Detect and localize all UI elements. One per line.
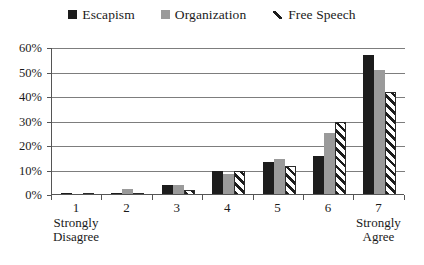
legend-swatch-hatch-icon <box>272 10 283 20</box>
bar-organization[interactable] <box>274 159 285 195</box>
x-tick-mark <box>303 195 304 200</box>
chart-legend: Escapism Organization Free Speech <box>0 8 424 22</box>
y-tick-mark <box>47 146 52 147</box>
bar-organization[interactable] <box>223 174 234 195</box>
x-category-sub-line1: Strongly <box>41 216 111 231</box>
bar-group-2 <box>111 48 144 195</box>
x-category-7: 7 Strongly Agree <box>343 201 413 245</box>
x-category-number: 7 <box>343 201 413 216</box>
y-tick-label: 10% <box>19 163 42 178</box>
bar-group-7 <box>363 48 396 195</box>
x-axis-labels: 1 Strongly Disagree 2 3 4 5 6 7 Strongly… <box>0 201 424 265</box>
x-tick-mark <box>101 195 102 200</box>
y-tick-label: 20% <box>19 139 42 154</box>
y-tick-mark <box>47 73 52 74</box>
y-tick-label: 60% <box>19 41 42 56</box>
x-axis-line <box>51 194 404 195</box>
y-tick-mark <box>47 97 52 98</box>
x-tick-mark <box>202 195 203 200</box>
x-tick-mark <box>404 195 405 200</box>
y-tick-label: 30% <box>19 114 42 129</box>
bar-escapism[interactable] <box>263 162 274 195</box>
bar-group-5 <box>263 48 296 195</box>
legend-label: Free Speech <box>288 8 355 22</box>
bar-free-speech[interactable] <box>385 92 396 195</box>
bar-free-speech[interactable] <box>335 122 346 196</box>
chart-container: Escapism Organization Free Speech 60% 50… <box>0 0 424 265</box>
x-tick-mark <box>253 195 254 200</box>
legend-swatch-square-icon <box>161 10 170 19</box>
x-category-sub-line2: Disagree <box>41 230 111 245</box>
x-category-sub-line2: Agree <box>343 230 413 245</box>
bar-free-speech[interactable] <box>285 166 296 195</box>
bar-escapism[interactable] <box>313 156 324 195</box>
y-tick-label: 40% <box>19 90 42 105</box>
plot-area <box>51 48 404 195</box>
bar-free-speech[interactable] <box>234 171 245 196</box>
x-tick-mark <box>152 195 153 200</box>
x-tick-mark <box>51 195 52 200</box>
bar-group-6 <box>313 48 346 195</box>
legend-label: Escapism <box>82 8 135 22</box>
bar-organization[interactable] <box>324 133 335 195</box>
legend-item-escapism: Escapism <box>68 8 135 22</box>
bar-organization[interactable] <box>374 70 385 195</box>
y-tick-label: 50% <box>19 65 42 80</box>
legend-item-free-speech: Free Speech <box>272 8 355 22</box>
y-tick-mark <box>47 171 52 172</box>
bar-group-3 <box>162 48 195 195</box>
y-tick-mark <box>47 122 52 123</box>
x-category-sub-line1: Strongly <box>343 216 413 231</box>
bar-group-1 <box>61 48 94 195</box>
bar-escapism[interactable] <box>363 55 374 195</box>
bar-group-4 <box>212 48 245 195</box>
y-tick-mark <box>47 48 52 49</box>
bar-escapism[interactable] <box>212 171 223 196</box>
legend-label: Organization <box>175 8 246 22</box>
x-tick-mark <box>353 195 354 200</box>
legend-item-organization: Organization <box>161 8 246 22</box>
legend-swatch-square-icon <box>68 10 77 19</box>
